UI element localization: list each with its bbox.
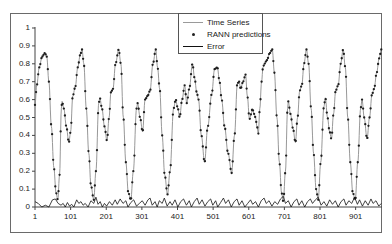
x-tick-label: 301 (127, 213, 157, 221)
x-tick-label: 901 (341, 213, 371, 221)
y-tick-label: 0.1 (10, 185, 30, 193)
rann-prediction-markers (34, 48, 383, 202)
y-tick-label: 0.4 (10, 131, 30, 139)
x-tick-label: 701 (269, 213, 299, 221)
y-tick-label: 1 (10, 24, 30, 32)
legend-item-error: Error (183, 40, 225, 52)
x-tick-label: 401 (163, 213, 193, 221)
error-line (35, 196, 381, 207)
x-tick-label: 1 (20, 213, 50, 221)
y-tick-label: 0 (10, 203, 30, 211)
legend-label: RANN predictions (207, 30, 271, 39)
x-tick-label: 601 (234, 213, 264, 221)
y-tick-label: 0.8 (10, 60, 30, 68)
legend-label: Time Series (207, 18, 249, 27)
y-tick-label: 0.9 (10, 42, 30, 50)
black-line-icon (183, 42, 203, 50)
y-tick-label: 0.7 (10, 78, 30, 86)
x-tick-label: 801 (305, 213, 335, 221)
y-tick-label: 0.5 (10, 114, 30, 122)
legend-item-rann-predictions: RANN predictions (183, 28, 271, 40)
y-tick-label: 0.6 (10, 96, 30, 104)
y-tick-label: 0.2 (10, 167, 30, 175)
x-tick-label: 501 (198, 213, 228, 221)
x-tick-label: 201 (91, 213, 121, 221)
x-tick-label: 101 (56, 213, 86, 221)
legend-item-time-series: Time Series (183, 16, 249, 28)
legend-label: Error (207, 42, 225, 51)
grey-line-icon (183, 18, 203, 26)
y-tick-label: 0.3 (10, 149, 30, 157)
dot-marker-icon (183, 30, 203, 38)
legend: Time Series RANN predictions Error (178, 13, 263, 54)
